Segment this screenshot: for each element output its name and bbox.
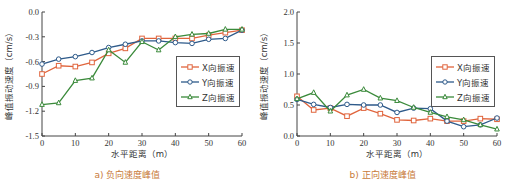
chart-negative-peak: 0.0-0.3-0.6-0.9-1.2-1.50102030405060水平距离… xyxy=(0,0,255,192)
x-tick-label: 20 xyxy=(104,138,113,148)
y-tick-label: 0.0 xyxy=(28,7,39,17)
triangle-marker-icon xyxy=(181,93,199,101)
legend-label: Y向振速 xyxy=(457,76,489,88)
legend-label: Z向振速 xyxy=(457,91,490,103)
legend-item-y: Y向振速 xyxy=(181,74,235,89)
x-tick-label: 10 xyxy=(71,138,80,148)
x-tick-label: 30 xyxy=(138,138,147,148)
legend-label: Y向振速 xyxy=(202,76,234,88)
y-axis-title: 峰值振动速度（cm/s） xyxy=(259,28,269,120)
x-tick-label: 60 xyxy=(238,138,247,148)
chart-positive-peak: 2.01.51.00.50.00102030405060水平距离（m）峰值振动速… xyxy=(255,0,510,192)
y-axis-title: 峰值振动速度（cm/s） xyxy=(4,28,14,120)
y-tick-label: -0.3 xyxy=(26,32,39,42)
y-tick-label: 1.5 xyxy=(283,38,294,48)
legend-item-x: X向振速 xyxy=(181,59,235,74)
x-tick-label: 60 xyxy=(493,138,502,148)
square-marker-icon xyxy=(436,63,454,71)
legend-label: Z向振速 xyxy=(202,91,235,103)
y-tick-label: -1.2 xyxy=(26,106,39,116)
x-tick-label: 40 xyxy=(426,138,435,148)
y-tick-label: -0.9 xyxy=(26,81,39,91)
chart-caption: b) 正向速度峰值 xyxy=(255,168,510,181)
y-tick-label: -0.6 xyxy=(26,57,39,67)
legend-item-z: Z向振速 xyxy=(436,89,490,104)
legend-item-x: X向振速 xyxy=(436,59,490,74)
y-tick-label: -1.5 xyxy=(26,131,39,141)
y-tick-label: 1.0 xyxy=(283,69,294,79)
x-tick-label: 50 xyxy=(459,138,468,148)
chart-legend: X向振速Y向振速Z向振速 xyxy=(431,56,495,107)
y-tick-label: 0.0 xyxy=(283,131,294,141)
y-tick-label: 0.5 xyxy=(283,100,294,110)
x-tick-label: 0 xyxy=(295,138,299,148)
legend-label: X向振速 xyxy=(457,61,490,73)
circle-marker-icon xyxy=(181,78,199,86)
chart-caption: a) 负向速度峰值 xyxy=(0,168,255,181)
x-axis-title: 水平距离（m） xyxy=(366,149,428,159)
x-tick-label: 20 xyxy=(359,138,368,148)
x-tick-label: 10 xyxy=(326,138,335,148)
circle-marker-icon xyxy=(436,78,454,86)
legend-item-z: Z向振速 xyxy=(181,89,235,104)
square-marker-icon xyxy=(181,63,199,71)
x-axis-title: 水平距离（m） xyxy=(111,149,173,159)
y-tick-label: 2.0 xyxy=(283,7,294,17)
x-tick-label: 50 xyxy=(204,138,213,148)
x-tick-label: 30 xyxy=(393,138,402,148)
legend-item-y: Y向振速 xyxy=(436,74,490,89)
legend-label: X向振速 xyxy=(202,61,235,73)
triangle-marker-icon xyxy=(436,93,454,101)
x-tick-label: 0 xyxy=(40,138,44,148)
chart-legend: X向振速Y向振速Z向振速 xyxy=(176,56,240,107)
x-tick-label: 40 xyxy=(171,138,180,148)
